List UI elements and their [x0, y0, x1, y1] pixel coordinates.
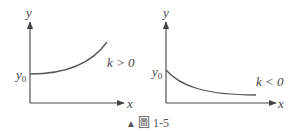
- triangle-marker-icon: ▲: [126, 118, 136, 129]
- decay-curve: [166, 70, 256, 95]
- left-x-label: x: [127, 97, 133, 110]
- left-condition-label: k > 0: [107, 56, 135, 69]
- figure-caption: ▲圖 1-5: [126, 113, 169, 131]
- right-panel: [166, 22, 276, 103]
- right-y0-label: y0: [152, 65, 162, 81]
- right-y-label: y: [163, 6, 169, 19]
- growth-curve: [30, 42, 107, 74]
- right-x-label: x: [278, 97, 284, 110]
- caption-text: 圖 1-5: [138, 116, 169, 130]
- right-condition-label: k < 0: [256, 75, 284, 88]
- left-y0-label: y0: [16, 68, 26, 84]
- left-y-label: y: [26, 6, 32, 19]
